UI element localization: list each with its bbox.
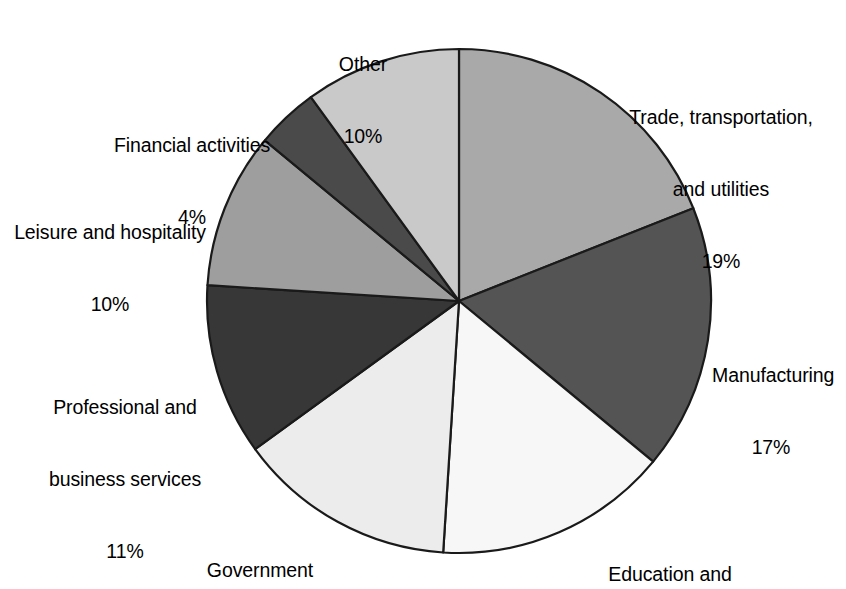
pie-label-professional-name-line1: Professional and: [30, 395, 220, 419]
pie-label-other-name: Other: [283, 52, 443, 76]
pie-chart: Other 10% Trade, transportation, and uti…: [0, 0, 846, 589]
pie-label-financial: Financial activities 4%: [88, 85, 296, 277]
pie-label-education-name-line1: Education and: [580, 562, 760, 586]
pie-label-professional-name-line2: business services: [30, 467, 220, 491]
pie-label-professional-value: 11%: [30, 539, 220, 563]
pie-label-other: Other 10%: [283, 4, 443, 196]
pie-label-trade-value: 19%: [596, 249, 846, 273]
pie-label-education: Education and health services 15%: [580, 514, 760, 589]
pie-label-financial-value: 4%: [88, 205, 296, 229]
pie-label-leisure-value: 10%: [2, 292, 218, 316]
pie-label-manufacturing-name: Manufacturing: [712, 363, 846, 387]
pie-label-trade: Trade, transportation, and utilities 19%: [596, 57, 846, 321]
pie-label-other-value: 10%: [283, 124, 443, 148]
pie-label-financial-name: Financial activities: [88, 133, 296, 157]
pie-label-trade-name-line1: Trade, transportation,: [596, 105, 846, 129]
pie-label-manufacturing: Manufacturing 17%: [712, 315, 846, 507]
pie-label-trade-name-line2: and utilities: [596, 177, 846, 201]
pie-label-manufacturing-value: 17%: [712, 435, 830, 459]
pie-label-professional: Professional and business services 11%: [30, 347, 220, 589]
